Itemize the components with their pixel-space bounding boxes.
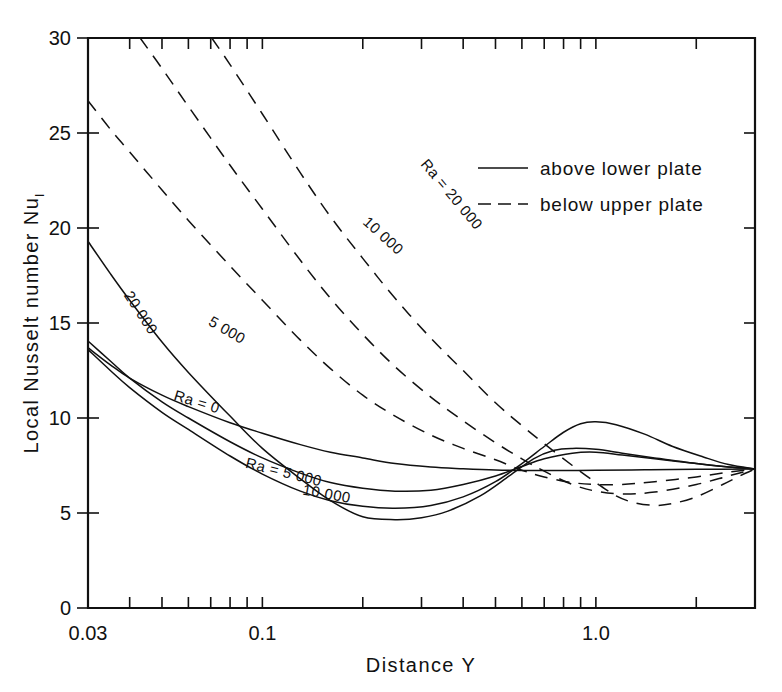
curve-label-ra-=-20-000: 20 000 — [121, 288, 162, 338]
curve-ra-=-10-000 — [88, 350, 755, 509]
nusselt-number-chart: 0.030.11.0051015202530 Ra = 0Ra = 5 0001… — [0, 0, 782, 692]
x-tick-label: 1.0 — [582, 622, 610, 644]
curve-label-ra-=-5-000-upper: 5 000 — [206, 312, 249, 346]
y-tick-label: 5 — [60, 502, 71, 524]
curve-ra-=-20-000 — [88, 241, 755, 519]
y-tick-label: 20 — [49, 217, 71, 239]
plot-frame — [88, 38, 755, 608]
x-tick-label: 0.1 — [248, 622, 276, 644]
curve-labels-layer: Ra = 0Ra = 5 00010 00020 0005 00010 000R… — [121, 155, 486, 505]
x-axis-title: Distance Y — [366, 654, 476, 676]
y-tick-label: 0 — [60, 597, 71, 619]
y-tick-label: 25 — [49, 122, 71, 144]
axis-tick-labels-layer: 0.030.11.0051015202530 — [49, 27, 610, 644]
axis-ticks-layer — [77, 38, 755, 608]
curve-ra-=-10-000-upper — [140, 38, 755, 494]
curve-ra-=-0 — [88, 348, 755, 471]
x-tick-label: 0.03 — [69, 622, 108, 644]
curve-label-ra-=-20-000-upper: Ra = 20 000 — [418, 155, 487, 232]
y-tick-label: 30 — [49, 27, 71, 49]
y-axis-title: Local Nusselt number Nul — [20, 192, 47, 453]
curve-label-ra-=-10-000-upper: 10 000 — [360, 213, 407, 258]
curve-label-ra-=-10-000: 10 000 — [302, 481, 352, 506]
figure-container: 0.030.11.0051015202530 Ra = 0Ra = 5 0001… — [0, 0, 782, 692]
axes-layer — [88, 38, 755, 608]
curves-layer — [88, 38, 755, 520]
legend-label-below-upper-plate: below upper plate — [540, 194, 704, 215]
legend-label-above-lower-plate: above lower plate — [540, 158, 703, 179]
y-tick-label: 15 — [49, 312, 71, 334]
curve-label-ra-=-0: Ra = 0 — [172, 386, 222, 416]
y-tick-label: 10 — [49, 407, 71, 429]
curve-ra-=-5-000 — [88, 341, 755, 491]
chart-legend: above lower plate below upper plate — [478, 158, 704, 215]
